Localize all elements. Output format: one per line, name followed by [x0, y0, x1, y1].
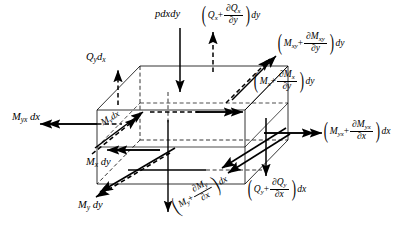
label-qx-plus: (Qx+∂Qx∂y)dy — [200, 4, 260, 27]
label-mxy-plus: (Mxy+∂Mxy∂y)dy — [276, 32, 344, 55]
label-qy-dx: Qydx — [86, 52, 106, 64]
label-pdxdy: pdxdy — [155, 9, 180, 20]
label-qy-plus: (Qy+∂Qy∂x)dx — [246, 178, 306, 201]
label-mx-plus: (Mx+∂Mx∂y)dy — [252, 70, 314, 93]
label-mx-dy: Mx dy — [86, 157, 111, 169]
label-myx-plus: (Myx+∂Myx∂x)dx — [322, 120, 390, 143]
center-axes-hidden — [168, 92, 262, 170]
diagram-canvas: pdxdy Qydx (Qx+∂Qx∂y)dy (Mxy+∂Mxy∂y)dy (… — [0, 0, 404, 232]
label-myx-dx: Myx dx — [12, 112, 40, 124]
label-my-dy: My dy — [78, 200, 103, 212]
arrow-my-plus — [222, 128, 290, 173]
